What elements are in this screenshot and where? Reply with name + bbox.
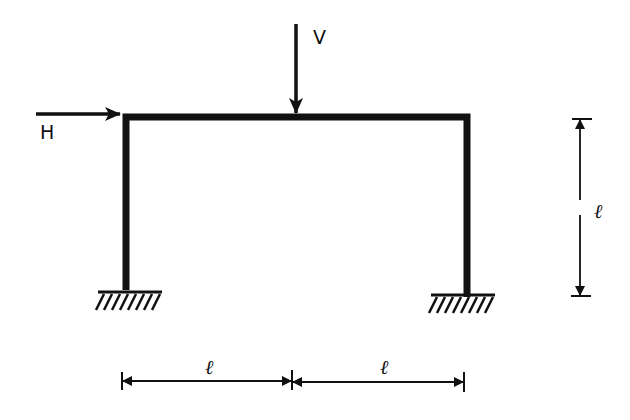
fixed-support-right (429, 295, 495, 313)
load-v-label: V (313, 26, 326, 48)
span-dimension (122, 370, 464, 392)
span-left-label: ℓ (205, 355, 214, 379)
span-right-label: ℓ (380, 355, 389, 379)
height-label: ℓ (594, 199, 603, 223)
height-dimension (571, 119, 592, 296)
portal-frame (126, 117, 467, 297)
frame-diagram: H V ℓ ℓ ℓ (0, 0, 630, 420)
fixed-support-left (96, 292, 162, 310)
load-h-label: H (40, 121, 54, 143)
